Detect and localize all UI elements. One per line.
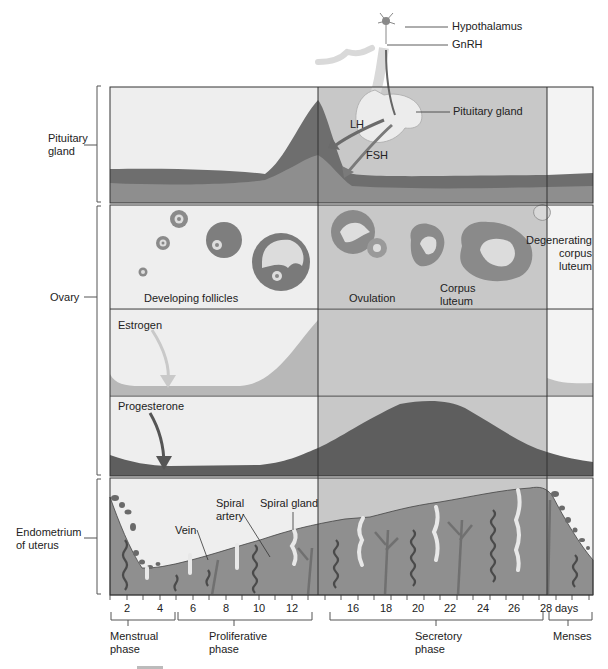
degenerating-line1: Degenerating [522, 234, 592, 247]
tick-4: 4 [157, 602, 163, 614]
lh-label: LH [350, 118, 364, 131]
menstrual-phase-label: Menstrual phase [110, 630, 158, 656]
developing-follicles-label: Developing follicles [144, 292, 238, 305]
side-brackets [84, 86, 101, 594]
tick-26: 26 [508, 602, 520, 614]
proliferative-line1: Proliferative [209, 630, 267, 643]
tick-8: 8 [223, 602, 229, 614]
estrogen-label: Estrogen [118, 319, 162, 332]
hypothalamus-label: Hypothalamus [452, 20, 522, 33]
estrogen-panel-post [318, 309, 547, 395]
tick-16: 16 [347, 602, 359, 614]
vein-label: Vein [175, 524, 196, 537]
corpus-luteum-label: Corpus luteum [440, 282, 475, 308]
proliferative-line2: phase [209, 643, 267, 656]
tick-20: 20 [412, 602, 424, 614]
proliferative-phase-label: Proliferative phase [209, 630, 267, 656]
gnrh-label: GnRH [452, 38, 483, 51]
tick-12: 12 [286, 602, 298, 614]
degenerating-line2: corpus [522, 247, 592, 260]
axis-unit-days: days [555, 602, 578, 615]
tick-2: 2 [124, 602, 130, 614]
side-label-endometrium-line2: of uterus [16, 539, 81, 552]
side-label-endometrium-line1: Endometrium [16, 526, 81, 539]
menstrual-line2: phase [110, 643, 158, 656]
secretory-line1: Secretory [415, 630, 462, 643]
menses-label: Menses [553, 630, 592, 643]
side-label-pituitary: Pituitary gland [48, 132, 88, 158]
tick-22: 22 [444, 602, 456, 614]
degenerating-line3: luteum [522, 260, 592, 273]
side-label-ovary: Ovary [50, 291, 79, 304]
axis-ticks [110, 595, 589, 600]
tick-10: 10 [253, 602, 265, 614]
menstrual-cycle-diagram [0, 0, 608, 669]
side-label-endometrium: Endometrium of uterus [16, 526, 81, 552]
menstrual-line1: Menstrual [110, 630, 158, 643]
side-label-pituitary-line2: gland [48, 145, 88, 158]
side-label-pituitary-line1: Pituitary [48, 132, 88, 145]
spiral-artery-label: Spiral artery [216, 497, 244, 523]
tick-6: 6 [190, 602, 196, 614]
progesterone-label: Progesterone [118, 400, 184, 413]
degenerating-corpus-luteum [534, 205, 551, 221]
phase-brackets [111, 612, 592, 626]
fsh-label: FSH [366, 149, 388, 162]
secretory-phase-label: Secretory phase [415, 630, 462, 656]
secretory-line2: phase [415, 643, 462, 656]
ovulation-label: Ovulation [349, 292, 395, 305]
corpus-luteum-line1: Corpus [440, 282, 475, 295]
spiral-gland-label: Spiral gland [260, 497, 318, 510]
spiral-artery-line2: artery [216, 510, 244, 523]
degenerating-corpus-luteum-label: Degenerating corpus luteum [522, 234, 592, 273]
tick-24: 24 [477, 602, 489, 614]
tick-28: 28 [540, 602, 552, 614]
pituitary-gland-label: Pituitary gland [453, 105, 523, 118]
corpus-luteum-line2: luteum [440, 295, 475, 308]
tick-18: 18 [380, 602, 392, 614]
spiral-artery-line1: Spiral [216, 497, 244, 510]
